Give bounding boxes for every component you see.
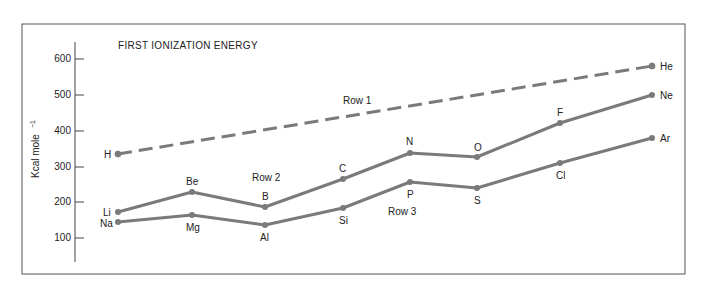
label-C: C xyxy=(339,163,346,174)
label-S: S xyxy=(474,195,481,206)
chart-title: FIRST IONIZATION ENERGY xyxy=(118,40,258,51)
y-ticks xyxy=(75,59,84,238)
label-Mg: Mg xyxy=(186,222,200,233)
label-B: B xyxy=(262,191,269,202)
label-N: N xyxy=(406,136,413,147)
y-tick-400: 400 xyxy=(54,125,71,136)
label-Be: Be xyxy=(186,176,199,187)
series-row-1 xyxy=(115,63,655,157)
label-He: He xyxy=(660,61,673,72)
label-O: O xyxy=(474,142,482,153)
series-row-2 xyxy=(115,92,655,215)
y-axis-label-text: Kcal mole xyxy=(30,134,41,178)
y-tick-labels: 600 500 400 300 200 100 xyxy=(54,53,71,243)
y-tick-200: 200 xyxy=(54,196,71,207)
ionization-energy-chart: 600 500 400 300 200 100 Kcal mole −1 FIR… xyxy=(0,0,709,288)
label-H: H xyxy=(104,149,111,160)
label-Cl: Cl xyxy=(556,170,565,181)
y-tick-500: 500 xyxy=(54,89,71,100)
label-Li: Li xyxy=(103,207,111,218)
label-Na: Na xyxy=(100,218,113,229)
label-Al: Al xyxy=(260,232,269,243)
y-axis-label: Kcal mole −1 xyxy=(29,120,41,178)
label-Ne: Ne xyxy=(660,90,673,101)
label-Si: Si xyxy=(339,215,348,226)
row-2-label: Row 2 xyxy=(252,172,281,183)
y-tick-600: 600 xyxy=(54,53,71,64)
label-F: F xyxy=(557,107,563,118)
label-Ar: Ar xyxy=(660,133,671,144)
row-1-label: Row 1 xyxy=(343,95,372,106)
y-axis-label-superscript: −1 xyxy=(29,120,36,128)
y-tick-300: 300 xyxy=(54,161,71,172)
chart-frame xyxy=(22,24,685,274)
row-3-label: Row 3 xyxy=(388,206,417,217)
y-tick-100: 100 xyxy=(54,232,71,243)
label-P: P xyxy=(407,189,414,200)
